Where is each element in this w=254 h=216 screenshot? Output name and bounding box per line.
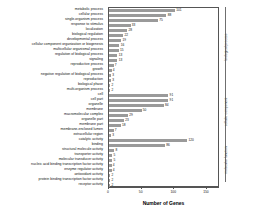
category-axis-labels: metabolic processcellular processsingle-… [0, 7, 106, 187]
bar-value-label: 88 [168, 13, 172, 18]
bar-value-label: 23 [125, 118, 129, 123]
bar [109, 94, 168, 98]
bar-value-label: 29 [129, 113, 133, 118]
bar [109, 44, 119, 48]
x-axis-tick-label: 50 [139, 190, 143, 194]
group-axis-label: biological process [224, 34, 228, 61]
bar [109, 89, 110, 93]
bar-value-label: 3 [112, 133, 114, 138]
x-axis-line [108, 187, 219, 188]
bar [109, 109, 142, 113]
bar [109, 9, 175, 13]
bar-value-label: 84 [165, 103, 169, 108]
bar [109, 174, 110, 178]
category-label: receptor activity [0, 182, 106, 187]
bar [109, 14, 166, 18]
plot-area: 1018875332822191615131374332291918450292… [108, 7, 219, 187]
group-axis-section: cellular component [221, 87, 230, 137]
bar [109, 74, 111, 78]
bar [109, 104, 164, 108]
bar [109, 154, 112, 158]
group-axis-label: cellular component [224, 98, 228, 126]
bar-value-label: 7 [115, 128, 117, 133]
x-axis-tick-label: 0 [107, 190, 109, 194]
bar [109, 159, 112, 163]
bar [109, 134, 111, 138]
x-axis-tick-label: 100 [171, 190, 177, 194]
bar [109, 54, 117, 58]
group-axis-section: molecular function [221, 137, 230, 182]
bar [109, 49, 119, 53]
x-axis: 050100150 [108, 187, 219, 188]
bar-value-label: 86 [166, 143, 170, 148]
bar [109, 179, 110, 183]
bar [109, 99, 168, 103]
bar-value-label: 8 [115, 148, 117, 153]
bar [109, 139, 187, 143]
bar [109, 164, 112, 168]
x-axis-title: Number of Genes [108, 200, 219, 206]
bar [109, 84, 110, 88]
bar-value-label: 120 [189, 138, 194, 143]
bar [109, 39, 121, 43]
bar-value-label: 33 [132, 23, 136, 28]
bar-value-label: 2 [112, 88, 114, 93]
bar [109, 144, 165, 148]
bar [109, 34, 123, 38]
group-axis-section: biological process [221, 7, 230, 87]
bar-value-label: 91 [170, 98, 174, 103]
bar [109, 24, 131, 28]
bar-value-label: 101 [176, 8, 181, 13]
bar-value-label: 7 [115, 63, 117, 68]
bar-value-label: 75 [159, 18, 163, 23]
bar-value-label: 50 [143, 108, 147, 113]
x-axis-tick-label: 150 [203, 190, 209, 194]
bar-value-label: 28 [128, 28, 132, 33]
go-enrichment-bar-chart: metabolic processcellular processsingle-… [0, 0, 254, 216]
group-axis-label: molecular function [224, 146, 228, 174]
bar-value-label: 13 [119, 58, 123, 63]
bar-value-label: 18 [122, 123, 126, 128]
